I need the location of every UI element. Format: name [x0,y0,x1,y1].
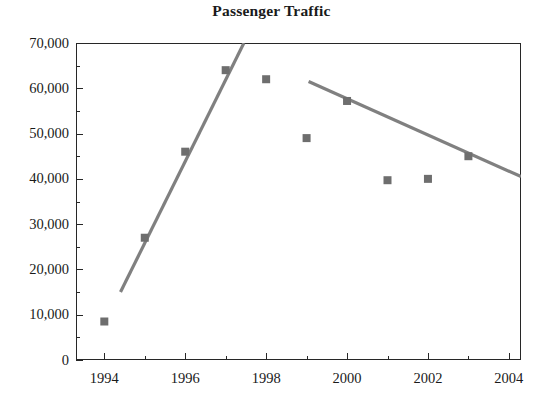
y-axis-tick-label: 70,000 [0,36,69,51]
y-axis-tick-label: 40,000 [0,171,69,186]
x-axis-tick-label: 1998 [226,371,306,386]
plot-area [76,43,521,360]
x-axis-tick-label: 1996 [145,371,225,386]
x-axis-tick-label: 2000 [307,371,387,386]
y-axis-tick-label: 30,000 [0,217,69,232]
chart-title: Passenger Traffic [0,2,543,20]
y-axis-tick-label: 10,000 [0,307,69,322]
y-axis-tick-label: 20,000 [0,262,69,277]
y-axis-tick-label: 0 [0,353,69,368]
y-axis-tick-label: 50,000 [0,126,69,141]
x-axis-tick-label: 2004 [469,371,543,386]
y-axis-tick-label: 60,000 [0,81,69,96]
passenger-traffic-chart: Passenger Traffic 010,00020,00030,00040,… [0,0,543,412]
x-axis-tick-label: 1994 [64,371,144,386]
x-axis-tick-label: 2002 [388,371,468,386]
